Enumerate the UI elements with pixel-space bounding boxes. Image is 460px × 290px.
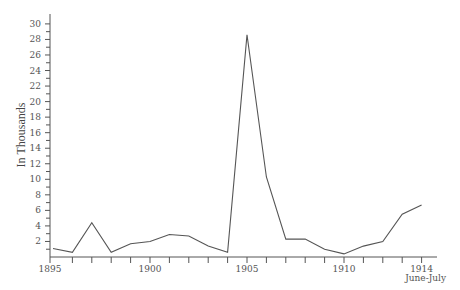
y-tick-label: 18 — [30, 112, 42, 122]
y-tick-label: 4 — [35, 221, 41, 231]
y-tick-label: 26 — [30, 50, 42, 60]
y-tick-label: 20 — [30, 97, 42, 107]
y-axis-title: In Thousands — [14, 102, 28, 167]
x-tick-label: 1905 — [236, 264, 259, 274]
y-axis-ticks: 24681012141618202224262830 — [30, 19, 50, 249]
x-axis-ticks: 18951900190519101914June-July — [39, 257, 447, 283]
y-tick-label: 2 — [35, 236, 41, 246]
y-tick-label: 22 — [30, 81, 41, 91]
y-tick-label: 8 — [35, 190, 41, 200]
x-tick-label: 1900 — [139, 264, 162, 274]
y-tick-label: 28 — [30, 34, 42, 44]
data-line — [53, 35, 422, 254]
y-tick-label: 6 — [35, 205, 41, 215]
line-chart: 24681012141618202224262830 1895190019051… — [0, 0, 460, 290]
x-tick-label: 1910 — [333, 264, 356, 274]
y-tick-label: 10 — [30, 174, 42, 184]
x-tick-sublabel: June-July — [404, 273, 447, 283]
y-tick-label: 14 — [30, 143, 42, 153]
y-tick-label: 24 — [30, 66, 42, 76]
y-tick-label: 12 — [30, 159, 41, 169]
x-tick-label: 1895 — [39, 264, 62, 274]
y-tick-label: 30 — [30, 19, 42, 29]
y-tick-label: 16 — [30, 128, 42, 138]
